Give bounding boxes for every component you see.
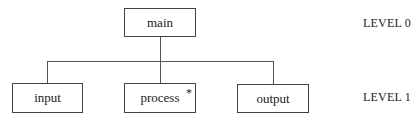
connector-root-down	[160, 36, 161, 61]
connector-to-input	[47, 61, 48, 83]
node-process: process *	[124, 83, 196, 113]
connector-to-output	[273, 61, 274, 84]
node-main-label: main	[147, 15, 173, 31]
node-process-label: process	[141, 90, 180, 106]
node-main: main	[124, 8, 196, 37]
node-input-label: input	[34, 90, 61, 106]
process-asterisk-marker: *	[186, 87, 192, 99]
node-output-label: output	[256, 91, 289, 107]
node-input: input	[12, 83, 83, 113]
node-output: output	[237, 84, 309, 113]
level-0-label: LEVEL 0	[363, 16, 411, 31]
level-1-label: LEVEL 1	[363, 90, 411, 105]
connector-to-process	[160, 61, 161, 83]
